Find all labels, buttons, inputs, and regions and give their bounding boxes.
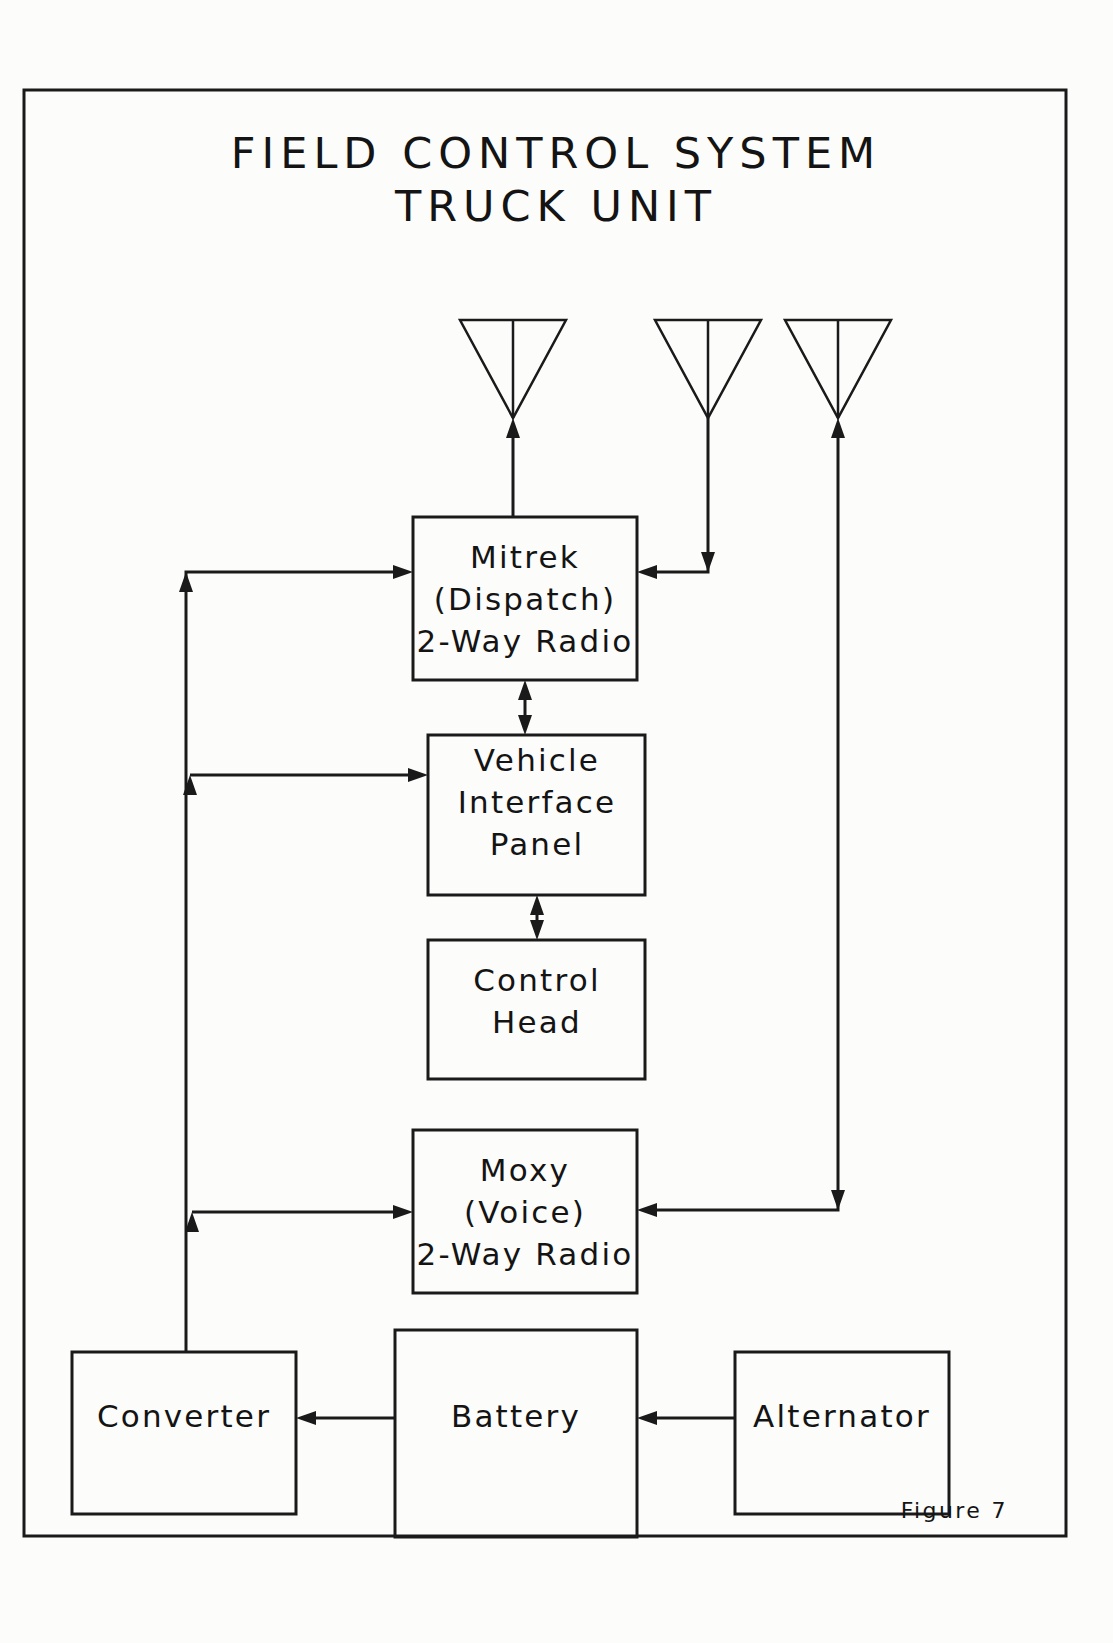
alternator-label: Alternator [753,1398,931,1434]
figure-page: FIELD CONTROL SYSTEM TRUCK UNIT [0,0,1113,1643]
diagram-canvas: FIELD CONTROL SYSTEM TRUCK UNIT [0,0,1113,1643]
mitrek-label-line-2: (Dispatch) [434,581,616,617]
control-head-label-line-1: Control [473,962,600,998]
moxy-label-line-2: (Voice) [464,1194,586,1230]
vip-label-line-1: Vehicle [474,742,600,778]
converter-label: Converter [97,1398,271,1434]
battery-label: Battery [451,1398,581,1434]
figure-title-line-1: FIELD CONTROL SYSTEM [231,128,881,178]
figure-title-line-2: TRUCK UNIT [394,181,717,231]
moxy-label-line-1: Moxy [480,1152,570,1188]
vip-label-line-3: Panel [490,826,585,862]
vip-label-line-2: Interface [458,784,617,820]
control-head-label-line-2: Head [492,1004,582,1040]
moxy-label-line-3: 2-Way Radio [417,1236,634,1272]
mitrek-label-line-1: Mitrek [470,539,580,575]
figure-caption: Figure 7 [901,1498,1008,1523]
mitrek-label-line-3: 2-Way Radio [417,623,634,659]
